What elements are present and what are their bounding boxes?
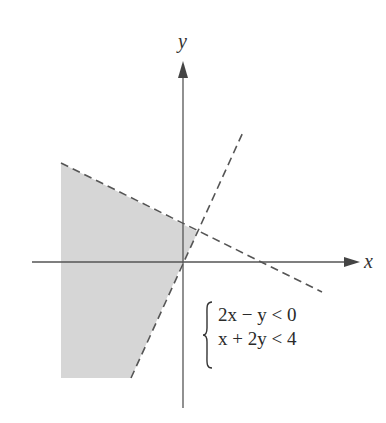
shaded-solution-region	[61, 163, 198, 378]
x-axis-arrow-icon	[344, 257, 360, 267]
inequality-system: 2x − y < 0 x + 2y < 4	[206, 303, 296, 351]
x-axis-label: x	[363, 250, 373, 272]
coordinate-plane: y x	[0, 0, 386, 423]
inequality-1: 2x − y < 0	[206, 303, 296, 327]
y-axis-label: y	[176, 30, 187, 53]
inequality-2: x + 2y < 4	[206, 327, 296, 351]
y-axis-arrow-icon	[178, 61, 188, 78]
